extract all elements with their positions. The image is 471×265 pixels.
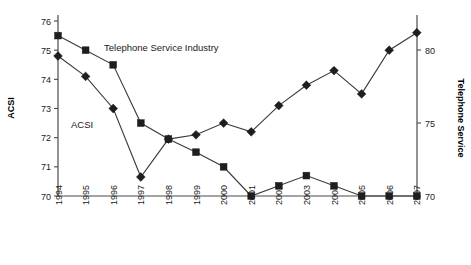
data-point-square xyxy=(386,193,393,200)
y-tick-label: 76 xyxy=(41,17,51,27)
data-point-square xyxy=(220,163,227,170)
data-point-square xyxy=(137,120,144,127)
chart-container: 7071727374757670758019941995199619971998… xyxy=(0,0,471,265)
x-tick-label: 1998 xyxy=(164,185,174,205)
y2-tick-label: 70 xyxy=(425,192,435,202)
data-point-square xyxy=(110,61,117,68)
y2-tick-label: 75 xyxy=(425,119,435,129)
x-tick-label: 1995 xyxy=(81,185,91,205)
series-line-acsi xyxy=(58,33,417,177)
y-tick-label: 72 xyxy=(41,133,51,143)
left-axis-title: ACSI xyxy=(6,97,16,119)
x-tick-label: 1999 xyxy=(192,185,202,205)
y2-tick-label: 80 xyxy=(425,46,435,56)
line-chart: 7071727374757670758019941995199619971998… xyxy=(0,0,471,265)
right-axis-title: Telephone Service xyxy=(456,79,466,158)
y-tick-label: 71 xyxy=(41,162,51,172)
data-point-square xyxy=(248,193,255,200)
data-point-square xyxy=(303,172,310,179)
data-point-diamond xyxy=(192,130,201,139)
data-point-square xyxy=(358,193,365,200)
x-tick-label: 1994 xyxy=(54,185,64,205)
data-point-square xyxy=(193,149,200,156)
data-point-square xyxy=(165,136,172,143)
y-tick-label: 74 xyxy=(41,75,51,85)
series-line-industry xyxy=(58,36,417,196)
x-tick-label: 2000 xyxy=(219,185,229,205)
x-tick-label: 1997 xyxy=(136,185,146,205)
y-tick-label: 73 xyxy=(41,104,51,114)
y-tick-label: 75 xyxy=(41,46,51,56)
data-point-diamond xyxy=(136,173,145,182)
chart-graphics: 7071727374757670758019941995199619971998… xyxy=(6,15,466,205)
x-tick-label: 2003 xyxy=(302,185,312,205)
data-point-square xyxy=(275,182,282,189)
data-point-square xyxy=(82,47,89,54)
data-point-diamond xyxy=(412,28,421,37)
data-point-diamond xyxy=(219,119,228,128)
series-annotation-acsi: ACSI xyxy=(71,119,93,130)
series-annotation-industry: Telephone Service Industry xyxy=(104,42,219,53)
data-point-square xyxy=(413,193,420,200)
x-tick-label: 1996 xyxy=(109,185,119,205)
data-point-diamond xyxy=(385,46,394,55)
data-point-square xyxy=(55,32,62,39)
y-tick-label: 70 xyxy=(41,192,51,202)
data-point-square xyxy=(331,182,338,189)
data-point-diamond xyxy=(302,81,311,90)
data-point-diamond xyxy=(54,52,63,61)
